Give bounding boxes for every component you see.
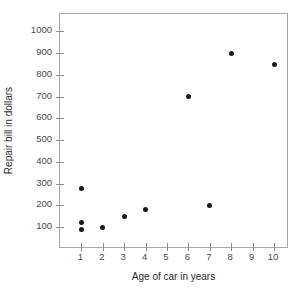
x-axis-title: Age of car in years xyxy=(59,271,288,282)
x-axis-tick xyxy=(167,243,168,251)
data-point xyxy=(186,94,191,99)
data-point xyxy=(229,51,234,56)
y-axis-tick-label: 400 xyxy=(36,156,52,166)
x-axis-tick-label: 3 xyxy=(121,252,126,262)
y-axis-tick xyxy=(56,75,64,76)
x-axis-tick-label: 1 xyxy=(78,252,83,262)
x-axis-tick-label: 10 xyxy=(268,252,279,262)
data-point xyxy=(79,227,84,232)
y-axis-tick-label: 600 xyxy=(36,113,52,123)
y-axis-tick-label: 800 xyxy=(36,69,52,79)
y-axis-tick-label: 200 xyxy=(36,200,52,210)
x-axis-tick-label: 2 xyxy=(99,252,104,262)
data-point xyxy=(100,225,105,230)
data-point xyxy=(272,62,277,67)
x-axis-tick-label: 9 xyxy=(249,252,254,262)
data-point xyxy=(143,207,148,212)
data-point xyxy=(122,214,127,219)
y-axis-tick-label: 100 xyxy=(36,221,52,231)
x-axis-tick xyxy=(81,243,82,251)
y-axis-tick xyxy=(56,205,64,206)
x-axis-tick xyxy=(253,243,254,251)
y-axis-tick xyxy=(56,53,64,54)
x-axis-tick xyxy=(103,243,104,251)
x-axis-tick xyxy=(210,243,211,251)
y-axis-tick xyxy=(56,227,64,228)
y-axis-tick xyxy=(56,118,64,119)
y-axis-tick-label: 1000 xyxy=(31,26,52,36)
y-axis-tick xyxy=(56,140,64,141)
x-axis-tick xyxy=(146,243,147,251)
scatter-plot-figure: Repair bill in dollars 10020030040050060… xyxy=(0,0,304,296)
x-axis-tick-label: 8 xyxy=(228,252,233,262)
data-point xyxy=(79,186,84,191)
y-axis-tick-label: 500 xyxy=(36,134,52,144)
y-axis-tick-label: 300 xyxy=(36,178,52,188)
x-axis-tick xyxy=(274,243,275,251)
x-axis-tick-label: 7 xyxy=(206,252,211,262)
y-axis-tick-label: 900 xyxy=(36,47,52,57)
y-axis-tick xyxy=(56,31,64,32)
plot-area xyxy=(59,13,288,248)
x-axis-tick-label: 6 xyxy=(185,252,190,262)
y-axis-tick-label: 700 xyxy=(36,91,52,101)
x-axis-tick xyxy=(231,243,232,251)
y-axis-tick xyxy=(56,184,64,185)
data-point xyxy=(79,220,84,225)
x-axis-tick xyxy=(124,243,125,251)
x-axis-tick xyxy=(188,243,189,251)
x-axis-tick-label: 5 xyxy=(163,252,168,262)
y-axis-tick xyxy=(56,97,64,98)
y-axis-tick-labels: 1002003004005006007008009001000 xyxy=(0,0,52,296)
data-point xyxy=(207,203,212,208)
x-axis-tick-label: 4 xyxy=(142,252,147,262)
y-axis-tick xyxy=(56,162,64,163)
